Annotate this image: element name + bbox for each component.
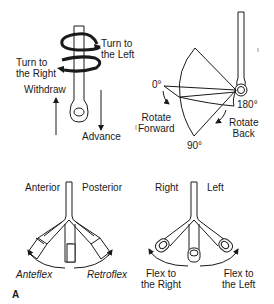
label-flex-right: Flex to the Right bbox=[141, 268, 181, 290]
label-flex-right-line2: the Right bbox=[141, 279, 181, 290]
label-180-degrees: 180° bbox=[237, 99, 258, 110]
label-90-degrees: 90° bbox=[187, 140, 202, 151]
label-anteflex: Anteflex bbox=[16, 269, 52, 280]
label-flex-left: Flex to the Left bbox=[222, 268, 255, 290]
ap-flex-diagram bbox=[28, 182, 112, 268]
lateral-flex-diagram bbox=[149, 182, 238, 266]
label-turn-right: Turn to the Right bbox=[16, 57, 56, 79]
label-posterior: Posterior bbox=[82, 182, 122, 193]
label-0-degrees: 0° bbox=[152, 79, 162, 90]
label-rotate-forward-line1: Rotate bbox=[138, 112, 175, 123]
shaft-diagram bbox=[56, 26, 101, 135]
label-flex-right-line1: Flex to bbox=[141, 268, 181, 279]
label-flex-left-line1: Flex to bbox=[222, 268, 255, 279]
label-left: Left bbox=[207, 182, 224, 193]
label-rotate-back-line1: Rotate bbox=[229, 117, 258, 128]
label-turn-left-line2: the Left bbox=[101, 49, 134, 60]
label-advance: Advance bbox=[82, 131, 121, 142]
label-turn-left: Turn to the Left bbox=[101, 38, 134, 60]
label-anterior: Anterior bbox=[25, 182, 60, 193]
label-rotate-back-line2: Back bbox=[229, 128, 258, 139]
label-turn-right-line1: Turn to bbox=[16, 57, 56, 68]
label-rotate-forward: Rotate Forward bbox=[138, 112, 175, 134]
label-retroflex: Retroflex bbox=[87, 269, 127, 280]
label-flex-left-line2: the Left bbox=[222, 279, 255, 290]
label-withdraw: Withdraw bbox=[24, 84, 66, 95]
panel-label: A bbox=[12, 289, 19, 300]
label-turn-right-line2: the Right bbox=[16, 68, 56, 79]
label-rotate-back: Rotate Back bbox=[229, 117, 258, 139]
label-turn-left-line1: Turn to bbox=[101, 38, 134, 49]
label-rotate-forward-line2: Forward bbox=[138, 123, 175, 134]
diagram-canvas bbox=[0, 0, 274, 304]
label-right: Right bbox=[155, 182, 178, 193]
